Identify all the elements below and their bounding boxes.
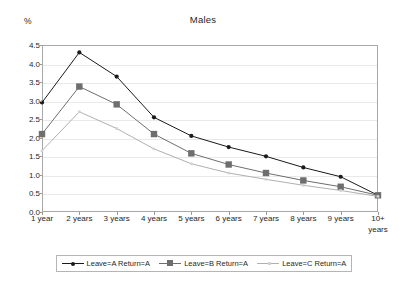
data-point-marker: [189, 134, 193, 138]
data-point-marker: [302, 184, 305, 187]
data-point-marker: [76, 83, 82, 89]
x-axis-tick-mark: [42, 212, 43, 215]
legend-key-icon: [159, 259, 181, 268]
x-axis-tick-mark: [191, 212, 192, 215]
data-point-marker: [77, 50, 81, 54]
data-point-marker: [377, 195, 380, 198]
y-axis-tick-mark: [39, 175, 42, 176]
chart-legend: Leave=A Return=ALeave=B Return=ALeave=C …: [56, 255, 352, 272]
data-point-marker: [225, 161, 231, 167]
data-point-marker: [337, 184, 343, 190]
data-point-marker: [190, 162, 193, 165]
series-1: [40, 50, 380, 197]
legend-key-icon: [257, 259, 279, 268]
legend-item-3[interactable]: Leave=C Return=A: [257, 259, 346, 268]
data-point-marker: [151, 131, 157, 137]
data-point-marker: [152, 115, 156, 119]
data-point-marker: [263, 170, 269, 176]
data-point-marker: [265, 178, 268, 181]
series-2: [39, 83, 381, 198]
chart-container: Males % 0.00.51.01.52.02.53.03.54.04.5 1…: [0, 0, 406, 287]
data-point-marker: [339, 175, 343, 179]
data-point-marker: [153, 148, 156, 151]
data-point-marker: [115, 127, 118, 130]
y-axis-tick-mark: [39, 193, 42, 194]
data-point-marker: [227, 145, 231, 149]
x-axis-tick-mark: [341, 212, 342, 215]
data-series-layer: [0, 0, 406, 287]
x-axis-tick-mark: [266, 212, 267, 215]
legend-item-label: Leave=C Return=A: [282, 259, 346, 268]
data-point-marker: [115, 74, 119, 78]
y-axis-tick-mark: [39, 138, 42, 139]
x-axis-tick-mark: [378, 212, 379, 215]
legend-item-2[interactable]: Leave=B Return=A: [159, 259, 248, 268]
series-line: [42, 87, 378, 196]
x-axis-tick-mark: [154, 212, 155, 215]
data-point-marker: [39, 131, 45, 137]
legend-key-icon: [62, 259, 84, 268]
y-axis-tick-mark: [39, 82, 42, 83]
y-axis-tick-mark: [39, 101, 42, 102]
data-point-marker: [78, 111, 81, 114]
legend-item-label: Leave=B Return=A: [184, 259, 248, 268]
data-point-marker: [339, 189, 342, 192]
y-axis-tick-mark: [39, 156, 42, 157]
data-point-marker: [188, 150, 194, 156]
x-axis-tick-mark: [117, 212, 118, 215]
data-point-marker: [113, 101, 119, 107]
legend-item-1[interactable]: Leave=A Return=A: [62, 259, 150, 268]
x-axis-tick-mark: [303, 212, 304, 215]
x-axis-tick-mark: [79, 212, 80, 215]
data-point-marker: [41, 149, 44, 152]
legend-item-label: Leave=A Return=A: [87, 259, 150, 268]
y-axis-tick-mark: [39, 64, 42, 65]
x-axis-tick-mark: [229, 212, 230, 215]
data-point-marker: [264, 154, 268, 158]
y-axis-tick-mark: [39, 119, 42, 120]
series-line: [42, 52, 378, 195]
data-point-marker: [301, 165, 305, 169]
data-point-marker: [300, 177, 306, 183]
series-line: [42, 112, 378, 197]
y-axis-tick-mark: [39, 45, 42, 46]
data-point-marker: [227, 172, 230, 175]
